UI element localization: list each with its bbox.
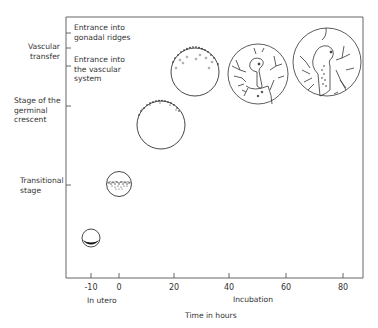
- label-line: gonadal ridges: [74, 33, 130, 43]
- label-line: crescent: [14, 115, 61, 125]
- x-tick-label: 60: [281, 283, 291, 292]
- label-line: stage: [20, 186, 64, 196]
- vascular-transfer-embryo-icon: [228, 44, 288, 104]
- x-tick-label: 0: [116, 283, 121, 292]
- label-line: Vascular: [8, 42, 60, 52]
- gonadal-ridge-embryo-icon: [293, 28, 361, 96]
- label-transitional-stage: Transitional stage: [20, 176, 64, 195]
- label-vascular-transfer: Vascular transfer: [8, 42, 60, 61]
- x-tick-label: -10: [84, 283, 97, 292]
- in-utero-embryo-icon: [82, 229, 100, 247]
- label-line: transfer: [8, 52, 60, 62]
- x-ticks: [91, 273, 343, 278]
- label-line: Stage of the: [14, 96, 61, 106]
- germinal-crescent-embryo-icon: [137, 100, 185, 149]
- x-tick-label: 40: [224, 283, 234, 292]
- label-line: germinal: [14, 106, 61, 116]
- label-gonadal-ridges: Entrance into gonadal ridges: [74, 23, 130, 42]
- x-tick-label: 20: [169, 283, 179, 292]
- vascular-entry-embryo-icon: [171, 46, 219, 96]
- label-line: Transitional: [20, 176, 64, 186]
- label-vascular-system: Entrance into the vascular system: [74, 55, 125, 84]
- label-line: Entrance into: [74, 23, 130, 33]
- x-axis-title: Time in hours: [185, 311, 237, 321]
- y-ticks: [66, 33, 71, 185]
- x-tick-label: 80: [338, 283, 348, 292]
- label-line: Entrance into: [74, 55, 125, 65]
- label-germinal-crescent: Stage of the germinal crescent: [14, 96, 61, 125]
- transitional-embryo-icon: [107, 172, 132, 197]
- label-in-utero: In utero: [87, 296, 117, 306]
- label-line: the vascular: [74, 65, 125, 75]
- label-line: system: [74, 74, 125, 84]
- label-incubation: Incubation: [233, 295, 273, 305]
